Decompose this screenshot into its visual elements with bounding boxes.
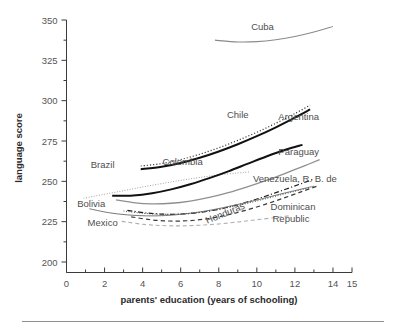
series-label-chile: Chile (227, 109, 249, 120)
x-axis-title: parents' education (years of schooling) (121, 294, 298, 305)
series-label-bolivia: Bolivia (77, 198, 106, 209)
y-tick-label: 325 (42, 55, 58, 66)
series-label-venezuela-r-b-de: Venezuela, R. B. de (253, 173, 337, 184)
series-label-mexico: Mexico (88, 217, 118, 228)
series-label-dominican-republic: Dominican (271, 201, 316, 212)
language-score-chart: 0246810121415200225250275300325350 CubaA… (0, 0, 402, 332)
y-tick-label: 300 (42, 95, 58, 106)
series-label-cuba: Cuba (251, 21, 274, 32)
x-tick-label: 14 (328, 278, 339, 289)
x-tick-label: 10 (252, 278, 263, 289)
series-curve-colombia (112, 145, 302, 196)
series-curve-cuba (215, 26, 333, 42)
y-tick-label: 225 (42, 216, 58, 227)
y-axis-title: language score (13, 113, 24, 183)
curves-layer (84, 26, 333, 225)
series-label-argentina: Argentina (278, 111, 319, 122)
x-tick-label: 15 (347, 278, 358, 289)
y-tick-label: 350 (42, 15, 58, 26)
x-tick-label: 12 (290, 278, 301, 289)
y-tick-label: 200 (42, 257, 58, 268)
series-label-colombia: Colombia (163, 156, 204, 167)
y-tick-label: 275 (42, 136, 58, 147)
y-tick-label: 250 (42, 176, 58, 187)
x-tick-label: 0 (64, 278, 69, 289)
x-tick-label: 6 (178, 278, 183, 289)
series-label-dominican-republic-line2: Republic (273, 213, 310, 224)
series-label-paraguay: Paraguay (278, 146, 319, 157)
series-label-brazil: Brazil (91, 159, 115, 170)
x-tick-label: 2 (102, 278, 107, 289)
x-tick-label: 4 (140, 278, 145, 289)
footer-divider (22, 321, 384, 322)
x-tick-label: 8 (216, 278, 221, 289)
